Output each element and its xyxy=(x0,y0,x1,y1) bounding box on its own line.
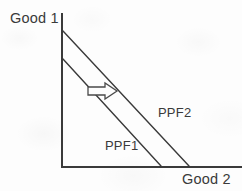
y-axis-label: Good 1 xyxy=(10,11,59,26)
plot-canvas xyxy=(0,0,242,191)
ppf-diagram: Good 1 Good 2 PPF2 PPF1 xyxy=(0,0,242,191)
ppf1-label: PPF1 xyxy=(105,139,138,152)
right-arrow-icon xyxy=(88,83,117,99)
x-axis-label: Good 2 xyxy=(182,172,231,187)
ppf2-label: PPF2 xyxy=(158,106,191,119)
